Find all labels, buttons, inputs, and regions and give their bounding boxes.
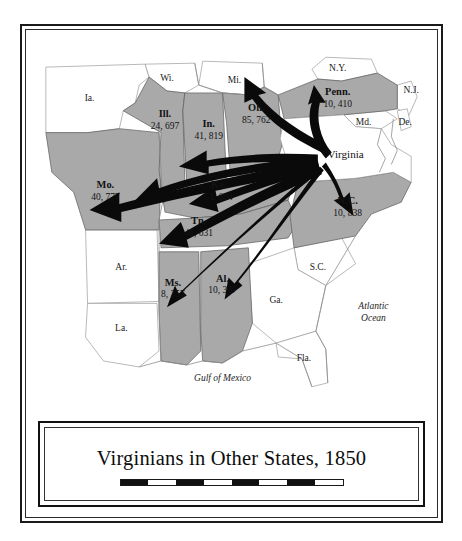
state-label-louisiana: La. bbox=[115, 323, 127, 333]
state-value-pennsylvania: 10, 410 bbox=[323, 99, 352, 109]
map-page: Ia. Wi. Mi. N.Y. N.J. Md. De. Ar. La. S.… bbox=[0, 0, 462, 541]
scale-bar-segment bbox=[121, 480, 149, 485]
state-label-northcarolina: N.C. bbox=[338, 195, 359, 206]
state-label-newjersey: N.J. bbox=[404, 85, 419, 95]
state-value-illinois: 24, 697 bbox=[151, 121, 180, 131]
state-label-tennessee: Tn. bbox=[191, 215, 207, 226]
state-shape-alabama bbox=[201, 248, 253, 363]
water-label-atlantic-ocean-line2: Ocean bbox=[361, 313, 386, 323]
state-label-georgia: Ga. bbox=[269, 295, 282, 305]
state-label-alabama: Al. bbox=[216, 273, 229, 284]
scale-bar-segment bbox=[176, 480, 204, 485]
state-label-delaware: De. bbox=[398, 117, 411, 127]
state-label-virginia: Virginia bbox=[328, 148, 364, 160]
state-label-illinois: Ill. bbox=[159, 108, 172, 119]
state-label-ohio: Oh. bbox=[248, 102, 265, 113]
state-value-ohio: 85, 762 bbox=[242, 115, 271, 125]
state-label-michigan: Mi. bbox=[228, 75, 241, 85]
state-value-missouri: 40, 777 bbox=[91, 192, 120, 202]
state-value-northcarolina: 10, 838 bbox=[333, 208, 362, 218]
state-label-pennsylvania: Penn. bbox=[325, 86, 351, 97]
state-label-wisconsin: Wi. bbox=[160, 73, 174, 83]
water-label-atlantic-ocean-line1: Atlantic bbox=[357, 301, 389, 311]
state-value-kentucky: 54, 694 bbox=[204, 192, 233, 202]
state-value-mississippi: 8, 357 bbox=[161, 289, 185, 299]
scale-bar-segment bbox=[259, 480, 287, 485]
state-label-missouri: Mo. bbox=[97, 179, 115, 190]
state-label-maryland: Md. bbox=[356, 117, 372, 127]
map-title: Virginians in Other States, 1850 bbox=[97, 447, 367, 470]
state-label-arkansas: Ar. bbox=[115, 262, 127, 272]
scale-bar-segment bbox=[232, 480, 260, 485]
state-label-kentucky: Ky. bbox=[211, 179, 227, 190]
state-label-southcarolina: S.C. bbox=[310, 262, 326, 272]
state-shape-mississippi bbox=[159, 252, 201, 365]
state-label-mississippi: Ms. bbox=[165, 277, 182, 288]
state-label-iowa: Ia. bbox=[85, 93, 95, 103]
scale-bar-segment bbox=[204, 480, 232, 485]
title-cartouche-inner-rule: Virginians in Other States, 1850 bbox=[44, 427, 419, 501]
scale-bar-segment bbox=[287, 480, 315, 485]
state-label-florida: Fla. bbox=[297, 353, 312, 363]
state-shape-louisiana bbox=[86, 303, 159, 367]
state-value-indiana: 41, 819 bbox=[194, 131, 223, 141]
scale-bar-segment bbox=[315, 480, 343, 485]
title-cartouche: Virginians in Other States, 1850 bbox=[38, 421, 425, 507]
state-shape-iowa bbox=[46, 64, 149, 132]
map-canvas: Ia. Wi. Mi. N.Y. N.J. Md. De. Ar. La. S.… bbox=[28, 32, 435, 410]
state-value-alabama: 10, 387 bbox=[208, 285, 237, 295]
state-label-newyork: N.Y. bbox=[329, 63, 346, 73]
map-svg: Ia. Wi. Mi. N.Y. N.J. Md. De. Ar. La. S.… bbox=[28, 32, 435, 410]
state-label-indiana: In. bbox=[202, 118, 215, 129]
scale-bar-segment bbox=[148, 480, 176, 485]
state-value-tennessee: 46, 631 bbox=[184, 228, 213, 238]
scale-bar bbox=[120, 479, 344, 486]
water-label-gulf-of-mexico: Gulf of Mexico bbox=[194, 373, 251, 383]
outer-frame: Ia. Wi. Mi. N.Y. N.J. Md. De. Ar. La. S.… bbox=[20, 24, 443, 523]
